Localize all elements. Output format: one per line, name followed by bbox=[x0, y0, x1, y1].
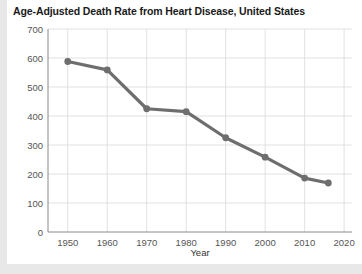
axes-group bbox=[48, 29, 352, 232]
gridlines-group bbox=[48, 29, 352, 232]
data-point-marker bbox=[183, 108, 190, 115]
y-tick-label: 100 bbox=[27, 198, 43, 209]
y-tick-labels-group: 0100200300400500600700 bbox=[27, 24, 43, 238]
chart-title: Age-Adjusted Death Rate from Heart Disea… bbox=[13, 5, 305, 17]
y-tick-label: 600 bbox=[27, 53, 43, 64]
x-tick-label: 2020 bbox=[334, 237, 355, 248]
x-tick-label: 1970 bbox=[136, 237, 157, 248]
y-tick-label: 700 bbox=[27, 24, 43, 35]
y-tick-label: 0 bbox=[38, 227, 43, 238]
screenshot-root: Age-Adjusted Death Rate from Heart Disea… bbox=[0, 0, 362, 274]
x-tick-label: 1990 bbox=[215, 237, 236, 248]
x-tick-label: 1950 bbox=[57, 237, 78, 248]
data-point-marker bbox=[143, 105, 150, 112]
plot-area: 0100200300400500600700 19501960197019801… bbox=[7, 22, 362, 262]
x-tick-label: 2010 bbox=[294, 237, 315, 248]
data-point-marker bbox=[222, 134, 229, 141]
y-tick-label: 300 bbox=[27, 140, 43, 151]
x-tick-label: 1960 bbox=[97, 237, 118, 248]
y-tick-label: 200 bbox=[27, 169, 43, 180]
data-series-group bbox=[64, 58, 331, 186]
data-point-marker bbox=[104, 66, 111, 73]
x-axis-title: Year bbox=[190, 247, 209, 258]
y-tick-label: 500 bbox=[27, 82, 43, 93]
y-tick-label: 400 bbox=[27, 111, 43, 122]
data-point-marker bbox=[64, 58, 71, 65]
line-chart-svg: 0100200300400500600700 19501960197019801… bbox=[7, 22, 362, 262]
x-tick-label: 2000 bbox=[255, 237, 276, 248]
data-point-marker bbox=[325, 180, 332, 187]
data-point-marker bbox=[301, 175, 308, 182]
chart-card: Age-Adjusted Death Rate from Heart Disea… bbox=[7, 0, 362, 264]
series-markers-group bbox=[64, 58, 331, 186]
data-point-marker bbox=[262, 154, 269, 161]
